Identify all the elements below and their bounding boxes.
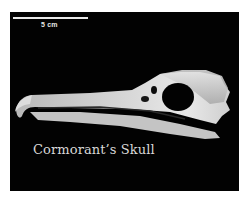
skull-illustration xyxy=(10,12,239,191)
fenestra-1 xyxy=(151,86,157,94)
skull-photo: 5 cm Cormorant’s Skull xyxy=(10,12,239,191)
caption: Cormorant’s Skull xyxy=(33,142,155,157)
orbit xyxy=(162,83,194,111)
fenestra-2 xyxy=(141,96,149,102)
